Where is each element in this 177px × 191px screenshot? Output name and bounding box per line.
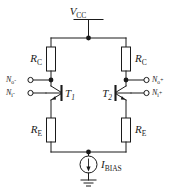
ibias-label: IBIAS <box>100 158 122 173</box>
ground-symbol <box>81 180 96 186</box>
t1-collector-slant <box>51 86 62 93</box>
circuit-diagram: VCC RC RC RE RE T1 T2 IBIAS No- Ni- No+ … <box>0 0 177 191</box>
circuit-schematic-svg: VCC RC RC RE RE T1 T2 IBIAS No- Ni- No+ … <box>0 0 177 191</box>
rc-left-body <box>47 47 56 71</box>
re-right-label: RE <box>134 123 147 138</box>
terminal-output-right-group <box>124 77 149 82</box>
terminal-input-right-group <box>131 90 149 95</box>
rc-left-label: RC <box>29 52 42 67</box>
terminal-input-right-label: Ni+ <box>151 88 162 98</box>
terminal-output-left-label: No- <box>5 75 16 85</box>
input-left-terminal-circle[interactable] <box>28 90 33 95</box>
transistor-left-t1 <box>46 80 62 118</box>
terminal-output-right-label: No+ <box>151 75 163 85</box>
resistor-collector-left <box>47 47 56 80</box>
transistor-right-t2 <box>116 80 132 118</box>
output-right-terminal-circle[interactable] <box>144 77 149 82</box>
t1-label: T1 <box>65 87 75 102</box>
vcc-supply-group <box>51 20 126 48</box>
rc-right-label: RC <box>134 52 147 67</box>
resistor-emitter-right <box>122 118 131 152</box>
vcc-node-dot <box>86 36 91 41</box>
re-right-body <box>122 118 131 142</box>
output-left-terminal-circle[interactable] <box>28 77 33 82</box>
resistor-collector-right <box>122 47 131 80</box>
terminal-input-left-label: Ni- <box>5 88 15 98</box>
resistor-emitter-left <box>47 118 56 152</box>
current-source-ibias <box>80 156 97 180</box>
t2-collector-slant <box>116 86 127 93</box>
re-left-label: RE <box>30 123 43 138</box>
terminal-output-left-group <box>28 77 53 82</box>
rc-right-body <box>122 47 131 71</box>
re-left-body <box>47 118 56 142</box>
input-right-terminal-circle[interactable] <box>144 90 149 95</box>
terminal-input-left-group <box>28 90 46 95</box>
t2-emitter-arrow <box>121 96 126 100</box>
t1-emitter-arrow <box>52 96 57 100</box>
tail-node-group <box>51 150 126 156</box>
t2-label: T2 <box>102 87 112 102</box>
vcc-label: VCC <box>70 5 87 20</box>
